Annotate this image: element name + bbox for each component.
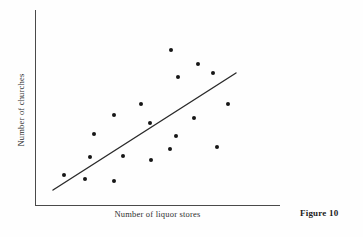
y-axis-label: Number of churches bbox=[16, 45, 26, 175]
data-point bbox=[83, 177, 87, 181]
data-point bbox=[215, 145, 219, 149]
data-point bbox=[176, 75, 180, 79]
x-axis-line bbox=[35, 205, 280, 206]
data-point bbox=[112, 179, 116, 183]
data-point bbox=[226, 102, 230, 106]
data-point bbox=[139, 102, 143, 106]
y-axis-line bbox=[35, 10, 36, 206]
data-point bbox=[88, 155, 92, 159]
trend-line bbox=[0, 0, 363, 237]
data-point bbox=[168, 147, 172, 151]
x-axis-label: Number of liquor stores bbox=[35, 209, 280, 219]
data-point bbox=[196, 62, 200, 66]
data-point bbox=[62, 173, 66, 177]
data-point bbox=[121, 154, 125, 158]
data-point bbox=[169, 48, 173, 52]
scatter-plot: Number of churches Number of liquor stor… bbox=[0, 0, 363, 237]
data-point bbox=[174, 134, 178, 138]
data-point bbox=[148, 121, 152, 125]
data-point bbox=[112, 113, 116, 117]
data-point bbox=[192, 116, 196, 120]
data-point bbox=[211, 71, 215, 75]
figure-caption: Figure 10 bbox=[300, 208, 338, 218]
figure-container: Number of churches Number of liquor stor… bbox=[0, 0, 363, 237]
data-point bbox=[149, 158, 153, 162]
data-point bbox=[92, 132, 96, 136]
